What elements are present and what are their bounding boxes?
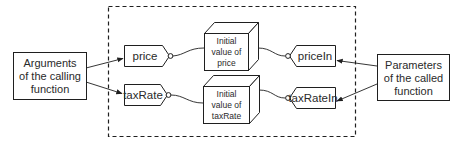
parameter-tag-taxratein: taxRateIn [286,88,338,109]
argument-label: taxRate [123,89,163,101]
argument-tag-taxrate: taxRate [123,85,171,106]
callee-box-line1: Parameters [385,59,442,71]
connector-value-to-taxratein [259,90,285,98]
connector-circle-icon [168,54,173,59]
connector-circle-icon [286,54,291,59]
value-line3: taxRate [212,111,242,121]
caller-box-line1: Arguments [23,57,77,69]
value-line2: value of [212,100,242,110]
argument-tag-price: price [125,46,173,67]
arrow-caller-to-price [86,59,123,69]
arrow-callee-to-taxratein [337,84,377,101]
value-line1: Initial [217,36,237,46]
parameter-tag-pricein: priceIn [286,46,336,67]
value-line3: price [217,58,236,68]
connector-circle-icon [166,93,171,98]
parameter-label: priceIn [298,50,333,62]
callee-box-line3: function [394,85,433,97]
value-line2: value of [212,47,242,57]
value-cube-price: Initial value of price [205,23,259,71]
connector-value-to-pricein [258,48,285,56]
callee-parameters-box: Parameters of the called function [378,55,450,101]
callee-box-line2: of the called [384,72,443,84]
argument-label: price [133,50,158,62]
parameter-passing-diagram: Arguments of the calling function Parame… [0,0,463,147]
parameter-label: taxRateIn [288,92,337,104]
caller-box-line2: of the calling [19,70,81,82]
arrow-callee-to-pricein [337,61,377,67]
connector-price-to-value [173,48,204,56]
value-cube-taxrate: Initial value of taxRate [204,76,260,124]
caller-box-line3: function [31,83,70,95]
caller-arguments-box: Arguments of the calling function [14,53,87,100]
connector-taxrate-to-value [171,95,203,103]
arrow-caller-to-taxrate [86,82,122,94]
value-line1: Initial [217,89,237,99]
